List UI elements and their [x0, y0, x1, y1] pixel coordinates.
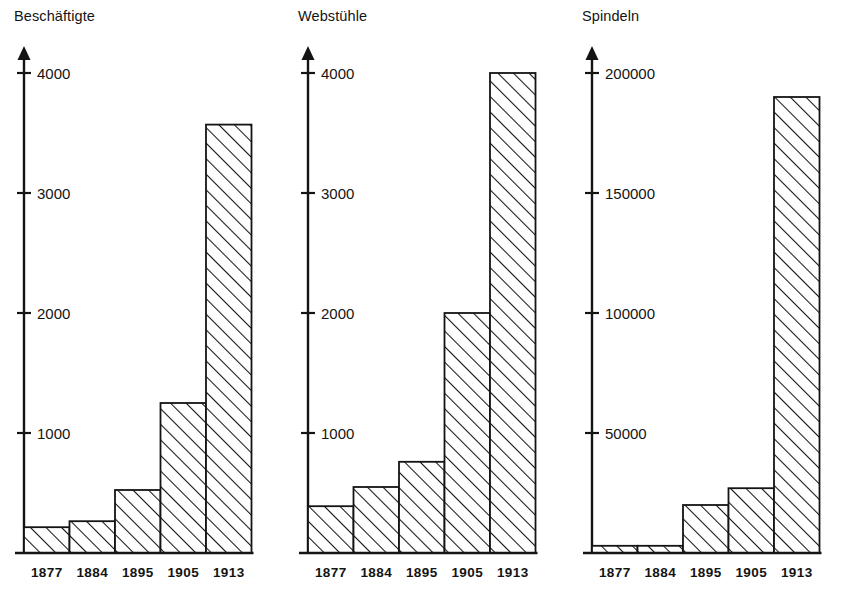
- x-tick-label: 1884: [644, 565, 676, 580]
- chart-panel-2: Webstühle1000200030004000187718841895190…: [284, 0, 568, 591]
- y-axis-arrow-icon: [18, 46, 31, 60]
- bar-1913: [206, 125, 252, 553]
- bar-1884: [70, 521, 116, 553]
- y-axis-arrow-icon: [586, 46, 599, 60]
- bar-1895: [683, 505, 729, 553]
- x-tick-label: 1877: [315, 565, 347, 580]
- bar-rect: [24, 527, 70, 553]
- y-tick-label: 200000: [605, 65, 655, 82]
- bar-1913: [490, 73, 536, 553]
- y-axis-arrow-icon: [302, 46, 315, 60]
- bar-1877: [24, 527, 70, 553]
- bar-1913: [774, 97, 820, 553]
- bar-rect: [490, 73, 536, 553]
- bar-rect: [206, 125, 252, 553]
- y-tick-label: 100000: [605, 305, 655, 322]
- x-tick-label: 1877: [31, 565, 63, 580]
- x-tick-label: 1877: [599, 565, 631, 580]
- bar-rect: [70, 521, 116, 553]
- bar-1905: [729, 488, 775, 553]
- y-tick-label: 4000: [37, 65, 70, 82]
- bar-1884: [354, 487, 400, 553]
- x-tick-label: 1913: [213, 565, 245, 580]
- y-tick-label: 150000: [605, 185, 655, 202]
- x-tick-label: 1905: [167, 565, 199, 580]
- bar-rect: [445, 313, 491, 553]
- x-tick-label: 1905: [451, 565, 483, 580]
- plot-area: 100020003000400018771884189519051913: [284, 0, 568, 591]
- plot-area: 100020003000400018771884189519051913: [0, 0, 284, 591]
- x-tick-label: 1884: [76, 565, 108, 580]
- triple-bar-chart-figure: Beschäftigte1000200030004000187718841895…: [0, 0, 853, 591]
- x-tick-label: 1895: [690, 565, 722, 580]
- x-tick-label: 1884: [360, 565, 392, 580]
- plot-area: 5000010000015000020000018771884189519051…: [568, 0, 852, 591]
- y-tick-label: 2000: [321, 305, 354, 322]
- y-tick-label: 50000: [605, 425, 647, 442]
- bar-1895: [399, 462, 445, 553]
- x-tick-label: 1895: [122, 565, 154, 580]
- bar-rect: [115, 490, 161, 553]
- chart-panel-1: Beschäftigte1000200030004000187718841895…: [0, 0, 284, 591]
- bar-1905: [445, 313, 491, 553]
- y-tick-label: 3000: [37, 185, 70, 202]
- x-tick-label: 1905: [735, 565, 767, 580]
- bar-rect: [774, 97, 820, 553]
- bar-rect: [354, 487, 400, 553]
- y-tick-label: 2000: [37, 305, 70, 322]
- x-tick-label: 1913: [781, 565, 813, 580]
- bar-1895: [115, 490, 161, 553]
- bar-rect: [161, 403, 207, 553]
- bar-rect: [308, 506, 354, 553]
- y-tick-label: 4000: [321, 65, 354, 82]
- bar-rect: [399, 462, 445, 553]
- x-tick-label: 1913: [497, 565, 529, 580]
- bar-rect: [683, 505, 729, 553]
- bar-rect: [729, 488, 775, 553]
- y-tick-label: 3000: [321, 185, 354, 202]
- y-tick-label: 1000: [321, 425, 354, 442]
- y-tick-label: 1000: [37, 425, 70, 442]
- bar-1905: [161, 403, 207, 553]
- chart-panel-3: Spindeln50000100000150000200000187718841…: [568, 0, 852, 591]
- x-tick-label: 1895: [406, 565, 438, 580]
- bar-1877: [308, 506, 354, 553]
